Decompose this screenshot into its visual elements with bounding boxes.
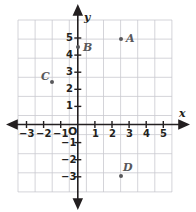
point-label-c: C bbox=[41, 71, 50, 82]
y-axis-label: y bbox=[84, 12, 90, 23]
grid-lines bbox=[18, 20, 172, 192]
x-axis-label: x bbox=[179, 108, 186, 119]
x-tick-label-5: 5 bbox=[160, 129, 167, 139]
x-tick-label-1: 1 bbox=[92, 129, 99, 139]
coordinate-plane-figure: y x O −3 −2 −1 1 2 3 4 5 5 4 3 2 1 −1 −2… bbox=[0, 0, 196, 212]
y-tick-label--2: −2 bbox=[61, 155, 76, 165]
x-tick-label--3: −3 bbox=[19, 129, 34, 139]
origin-label: O bbox=[68, 126, 77, 137]
x-tick-label-2: 2 bbox=[109, 129, 116, 139]
y-tick-label--3: −3 bbox=[61, 172, 76, 182]
point-dot-a bbox=[119, 37, 123, 41]
x-tick-label-3: 3 bbox=[126, 129, 133, 139]
point-label-a: A bbox=[126, 33, 135, 44]
x-tick-label--2: −2 bbox=[36, 129, 51, 139]
y-tick-label--1: −1 bbox=[61, 138, 76, 148]
grid-and-axes bbox=[0, 0, 196, 212]
y-tick-label-1: 1 bbox=[66, 101, 73, 111]
point-label-d: D bbox=[123, 162, 133, 173]
point-dot-c bbox=[50, 80, 54, 84]
y-tick-label-4: 4 bbox=[66, 50, 73, 60]
y-tick-label-5: 5 bbox=[66, 33, 73, 43]
point-label-b: B bbox=[83, 42, 92, 53]
y-tick-label-2: 2 bbox=[66, 84, 73, 94]
point-dot-d bbox=[119, 174, 123, 178]
y-tick-label-3: 3 bbox=[66, 67, 73, 77]
x-tick-label-4: 4 bbox=[143, 129, 150, 139]
point-dot-b bbox=[76, 45, 80, 49]
